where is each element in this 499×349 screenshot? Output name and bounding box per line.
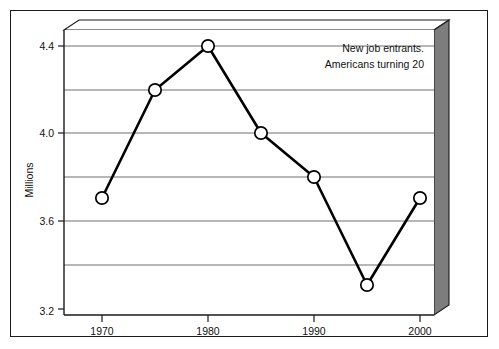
x-tick-label-2000: 2000: [408, 325, 432, 337]
x-tick-label-1980: 1980: [196, 325, 220, 337]
plot-area-background: [64, 30, 434, 315]
y-tick-label-3.6: 3.6: [39, 215, 54, 227]
plot-side-panel: [434, 20, 449, 315]
y-tick-marks: [58, 46, 64, 309]
y-tick-label-4.4: 4.4: [39, 40, 54, 52]
data-point-2000: [414, 192, 426, 204]
x-tick-label-1970: 1970: [90, 325, 114, 337]
annotation-line-1: New job entrants.: [342, 42, 424, 54]
plot-top-bevel-face: [64, 20, 449, 30]
data-point-1990: [308, 171, 320, 183]
x-tick-label-1990: 1990: [302, 325, 326, 337]
x-tick-marks: [102, 315, 420, 322]
data-point-1975: [149, 84, 161, 96]
data-point-1985: [255, 127, 267, 139]
chart-figure: 4.4 4.0 3.6 3.2 Millions 1970 1980 1990 …: [0, 0, 499, 349]
y-axis-title: Millions: [23, 162, 35, 197]
data-point-1970: [96, 192, 108, 204]
data-point-1995: [361, 279, 373, 291]
line-chart: 4.4 4.0 3.6 3.2 Millions 1970 1980 1990 …: [0, 0, 499, 349]
y-tick-label-3.2: 3.2: [39, 305, 54, 317]
data-point-1980: [202, 40, 214, 52]
annotation-line-2: Americans turning 20: [325, 58, 424, 70]
y-tick-label-4.0: 4.0: [39, 127, 54, 139]
